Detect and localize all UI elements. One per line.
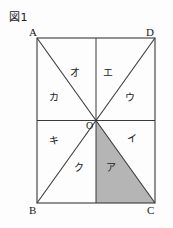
corner-label-a: A [29, 27, 37, 38]
region-label-ki: キ [49, 136, 59, 146]
region-label-e: エ [103, 68, 113, 78]
region-label-ku: ク [74, 163, 84, 173]
region-label-o: オ [70, 68, 80, 78]
corner-label-b: B [29, 205, 36, 216]
region-label-u: ウ [125, 93, 135, 103]
region-label-a: ア [106, 163, 116, 173]
corner-label-c: C [147, 205, 154, 216]
center-point-label-o: O [86, 120, 93, 131]
corner-label-d: D [146, 27, 154, 38]
region-label-ka: カ [49, 93, 59, 103]
region-label-i: イ [127, 134, 137, 144]
figure-container: 図1 A D B C O オ エ カ ウ キ イ ク ア [0, 0, 173, 228]
